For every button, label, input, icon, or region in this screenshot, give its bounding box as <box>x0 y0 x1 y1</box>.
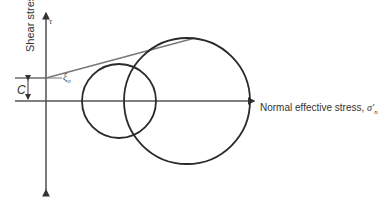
x-axis-label: Normal effective stress, σ'n <box>260 102 378 116</box>
y-axis-label: Shear stress <box>24 0 36 52</box>
sigma-subscript: n <box>374 108 378 116</box>
xi-subscript: o <box>67 77 71 85</box>
tau-symbol: τ <box>49 16 52 26</box>
x-axis-label-text: Normal effective stress, <box>260 102 367 113</box>
cohesion-label: C <box>17 83 26 97</box>
friction-angle-label: ξo <box>63 71 71 85</box>
